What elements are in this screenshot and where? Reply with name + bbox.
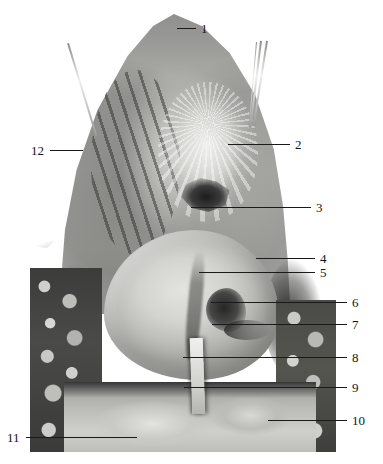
label-12: 12 xyxy=(31,144,44,157)
label-3: 3 xyxy=(316,201,323,214)
leader-line-10 xyxy=(268,420,347,421)
label-11: 11 xyxy=(7,431,20,444)
anatomy-figure: 123456789101112 xyxy=(0,0,383,464)
dissection-photograph xyxy=(28,0,337,452)
leader-line-8 xyxy=(183,357,347,358)
label-9: 9 xyxy=(352,381,359,394)
pale-vertical-strip xyxy=(190,338,206,414)
label-6: 6 xyxy=(352,296,359,309)
label-2: 2 xyxy=(295,138,302,151)
leader-line-9 xyxy=(184,387,347,388)
probe-shaft-left xyxy=(67,43,97,136)
leader-line-4 xyxy=(256,258,315,259)
white-marker-tag xyxy=(30,236,54,248)
lower-shelf-shadow xyxy=(64,382,316,398)
label-1: 1 xyxy=(201,22,208,35)
label-4: 4 xyxy=(320,252,327,265)
leader-line-6 xyxy=(211,302,347,303)
leader-line-3 xyxy=(191,207,311,208)
leader-line-7 xyxy=(212,324,347,325)
dark-recess-extension xyxy=(224,320,270,340)
label-5: 5 xyxy=(320,266,327,279)
leader-line-1 xyxy=(177,28,196,29)
leader-line-5 xyxy=(199,272,315,273)
label-8: 8 xyxy=(352,351,359,364)
leader-line-2 xyxy=(228,144,290,145)
label-10: 10 xyxy=(352,414,365,427)
leader-line-11 xyxy=(26,437,137,438)
label-7: 7 xyxy=(352,318,359,331)
leader-line-12 xyxy=(50,150,83,151)
